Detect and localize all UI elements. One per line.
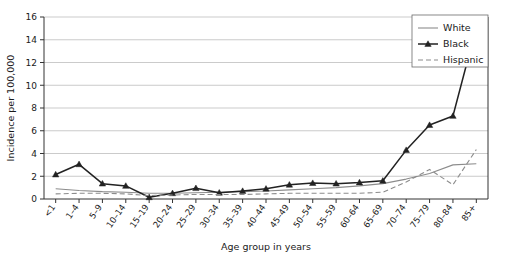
x-tick-label: 80–84 bbox=[431, 202, 454, 229]
x-tick-label: 75–79 bbox=[408, 202, 431, 229]
x-tick-label: 70–74 bbox=[385, 202, 408, 229]
x-tick-label: 30–34 bbox=[198, 202, 221, 229]
x-tick-label: 40–44 bbox=[244, 202, 267, 229]
x-tick-label: 15–19 bbox=[128, 202, 151, 229]
y-tick-label: 6 bbox=[31, 126, 37, 136]
x-tick-label: 35–39 bbox=[221, 202, 244, 229]
x-tick-label: 5–9 bbox=[87, 202, 104, 220]
y-tick-label: 8 bbox=[31, 103, 37, 113]
x-tick-label: 45–49 bbox=[268, 202, 291, 229]
y-tick-label: 16 bbox=[26, 12, 38, 22]
legend-label-black: Black bbox=[443, 38, 469, 49]
y-tick-label: 10 bbox=[26, 81, 38, 91]
y-tick-label: 12 bbox=[26, 58, 37, 68]
y-axis-title: Incidence per 100,000 bbox=[5, 55, 16, 162]
x-tick-label: 1–4 bbox=[64, 202, 81, 220]
x-axis-title: Age group in years bbox=[221, 241, 311, 252]
chart-canvas: 0246810121416 <11–45–910–1415–1920–2425–… bbox=[0, 0, 509, 257]
chart-legend: WhiteBlackHispanic bbox=[412, 15, 488, 67]
x-tick-label: <1 bbox=[42, 202, 57, 218]
x-tick-label: 25–29 bbox=[174, 202, 197, 229]
y-tick-label: 14 bbox=[26, 35, 38, 45]
x-tick-label: 85+ bbox=[459, 202, 478, 223]
y-axis-ticks: 0246810121416 bbox=[26, 12, 44, 204]
x-axis-ticks: <11–45–910–1415–1920–2425–2930–3435–3940… bbox=[42, 199, 478, 230]
x-tick-label: 55–59 bbox=[315, 202, 338, 229]
y-tick-label: 4 bbox=[31, 149, 37, 159]
legend-label-hispanic: Hispanic bbox=[443, 54, 483, 65]
y-tick-label: 2 bbox=[31, 172, 37, 182]
y-tick-label: 0 bbox=[31, 194, 37, 204]
x-tick-label: 60–64 bbox=[338, 202, 361, 229]
incidence-by-age-chart: 0246810121416 <11–45–910–1415–1920–2425–… bbox=[0, 0, 509, 257]
x-tick-label: 65–69 bbox=[361, 202, 384, 229]
x-tick-label: 10–14 bbox=[104, 202, 127, 229]
x-tick-label: 20–24 bbox=[151, 202, 174, 229]
x-tick-label: 50–54 bbox=[291, 202, 314, 229]
legend-label-white: White bbox=[443, 22, 471, 33]
